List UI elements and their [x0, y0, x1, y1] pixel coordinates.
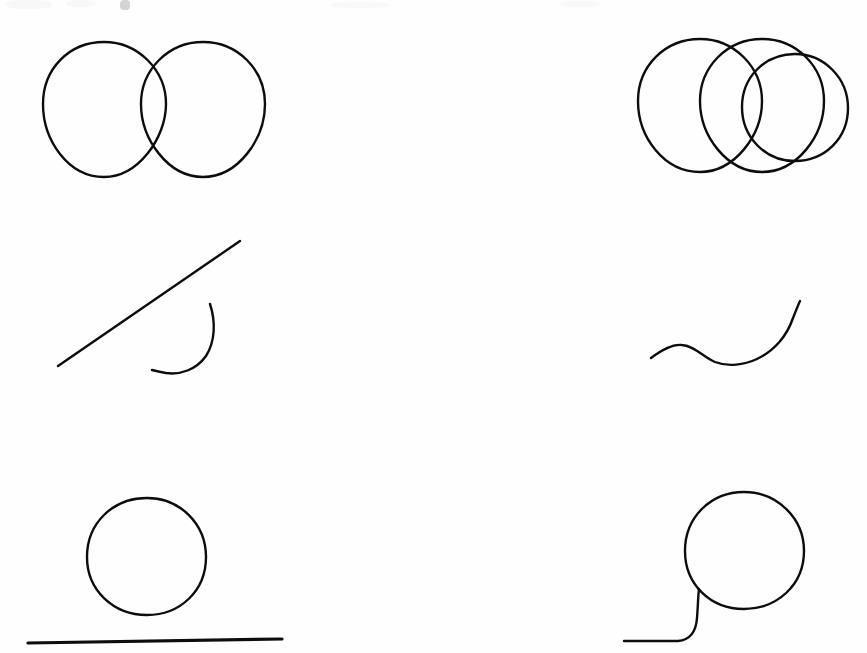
circle-outline	[685, 492, 804, 609]
horizontal-baseline	[28, 639, 282, 643]
figure-circle-with-tail	[624, 492, 804, 641]
diagonal-straight-line	[58, 241, 240, 366]
figures-canvas	[0, 0, 867, 653]
circle-left-outline	[43, 42, 166, 177]
curved-tail-stroke	[624, 589, 699, 641]
figure-three-overlapping-circles	[638, 39, 848, 172]
drawing-sheet	[0, 0, 867, 653]
figure-diagonal-line-and-arc	[58, 241, 240, 373]
figure-two-overlapping-circles	[43, 42, 265, 177]
wavy-s-curve	[651, 301, 800, 365]
figure-s-shaped-wavy-curve	[651, 301, 800, 365]
open-arc-curve	[152, 304, 214, 373]
circle-third-small-outline	[742, 54, 848, 161]
circle-right-outline	[141, 42, 265, 177]
circle-outline	[87, 498, 206, 615]
figure-circle-above-line	[28, 498, 282, 643]
